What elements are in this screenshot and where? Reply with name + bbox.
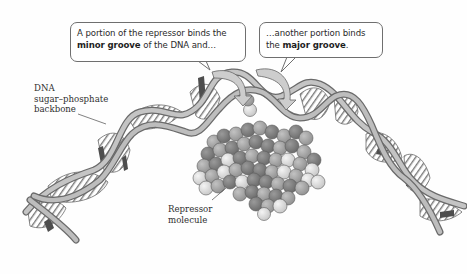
major-groove-term: major groove bbox=[282, 40, 345, 50]
repressor-label: Repressor molecule bbox=[168, 204, 212, 225]
callout-line-2: minor groove of the DNA and… bbox=[77, 39, 239, 51]
major-groove-callout: …another portion binds the major groove. bbox=[259, 22, 383, 58]
backbone-label: DNA sugar–phosphate backbone bbox=[34, 83, 108, 115]
callout-line-1: A portion of the repressor binds the bbox=[77, 27, 239, 39]
minor-groove-callout: A portion of the repressor binds the min… bbox=[70, 22, 246, 62]
minor-groove-term: minor groove bbox=[77, 40, 141, 50]
callout-line-1: …another portion binds bbox=[266, 27, 376, 39]
dna-repressor-diagram: A portion of the repressor binds the min… bbox=[0, 0, 467, 274]
callout-line-2: the major groove. bbox=[266, 39, 376, 51]
